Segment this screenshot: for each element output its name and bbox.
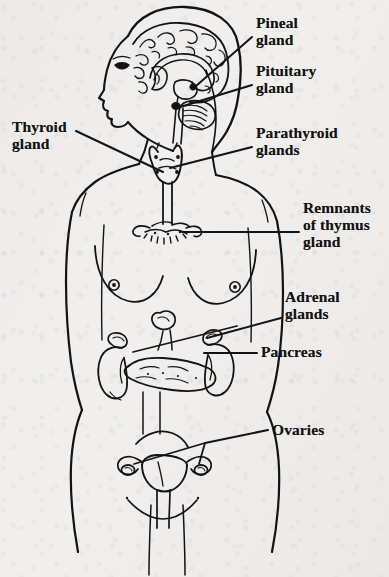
uterus: [142, 455, 187, 528]
kidneys-adrenals-pancreas: [98, 311, 234, 434]
parathyroid-glands-label: Parathyroidglands: [256, 124, 338, 158]
adrenal-glands-label: Adrenalglands: [285, 288, 340, 322]
adrenal-gland-left: [108, 333, 127, 348]
ovary-left: [118, 457, 142, 475]
pancreas: [125, 358, 216, 391]
leader-line-ovaries-left: [134, 443, 205, 464]
pineal-gland-label: Pinealgland: [256, 14, 298, 48]
thyroid-gland-label: Thyroidgland: [12, 118, 67, 152]
pineal-gland: [190, 84, 196, 90]
breasts: [95, 246, 256, 304]
leader-line-pineal: [196, 37, 252, 86]
brain-cross-section: [133, 23, 228, 144]
ovary-right: [187, 457, 211, 475]
leader-line-ovaries-right: [199, 443, 205, 464]
thymus-gland-label: Remnantsof thymusgland: [303, 199, 371, 250]
head-profile: [99, 7, 241, 152]
leader-line-ovaries: [205, 430, 268, 443]
trachea: [163, 182, 172, 224]
pituitary-gland-label: Pituitarygland: [256, 62, 316, 96]
pancreas-label: Pancreas: [261, 343, 322, 360]
endocrine-diagram-page: Pinealgland Pituitarygland Thyroidgland …: [0, 0, 389, 577]
parathyroid-glands: [154, 155, 180, 174]
leader-line-adrenal: [207, 318, 281, 338]
pituitary-gland: [172, 97, 180, 109]
ovaries-label: Ovaries: [272, 421, 324, 438]
